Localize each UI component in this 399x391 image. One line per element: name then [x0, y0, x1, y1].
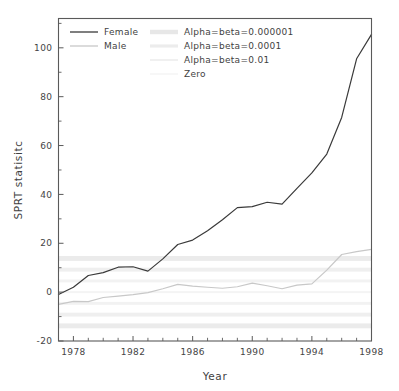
y-tick-label-2: 20 — [40, 238, 52, 248]
x-tick-label-2: 1986 — [180, 347, 205, 357]
y-axis-title: SPRT statisitc — [12, 140, 24, 219]
reference-band-2-0 — [59, 279, 372, 282]
reference-band-0-0 — [59, 256, 372, 261]
x-tick-label-1: 1982 — [121, 347, 146, 357]
legend-label-0: Female — [104, 27, 139, 37]
legend-label-2: Alpha=beta=0.000001 — [184, 27, 294, 37]
y-tick-label-0: -20 — [37, 336, 53, 346]
y-tick-label-3: 40 — [40, 190, 52, 200]
legend-label-1: Male — [104, 41, 127, 51]
legend-label-5: Zero — [184, 69, 206, 79]
reference-band-3-0 — [59, 291, 372, 293]
y-tick-label-4: 60 — [40, 141, 52, 151]
y-tick-label-5: 80 — [40, 92, 52, 102]
legend-label-3: Alpha=beta=0.0001 — [184, 41, 282, 51]
chart-screenshot: -20020406080100 197819821986199019941998… — [0, 0, 399, 391]
x-tick-label-5: 1998 — [359, 347, 384, 357]
y-tick-label-1: 0 — [46, 287, 52, 297]
x-tick-label-4: 1994 — [300, 347, 325, 357]
sprt-line-chart: -20020406080100 197819821986199019941998… — [0, 0, 399, 391]
y-tick-label-6: 100 — [34, 43, 52, 53]
reference-band-2-1 — [59, 302, 372, 305]
legend-label-4: Alpha=beta=0.01 — [184, 55, 270, 65]
reference-band-0-1 — [59, 323, 372, 328]
reference-band-1-1 — [59, 313, 372, 317]
figure-canvas: -20020406080100 197819821986199019941998… — [0, 0, 399, 391]
x-tick-label-0: 1978 — [61, 347, 86, 357]
reference-band-1-0 — [59, 268, 372, 272]
x-tick-label-3: 1990 — [240, 347, 265, 357]
x-axis-title: Year — [202, 370, 228, 382]
